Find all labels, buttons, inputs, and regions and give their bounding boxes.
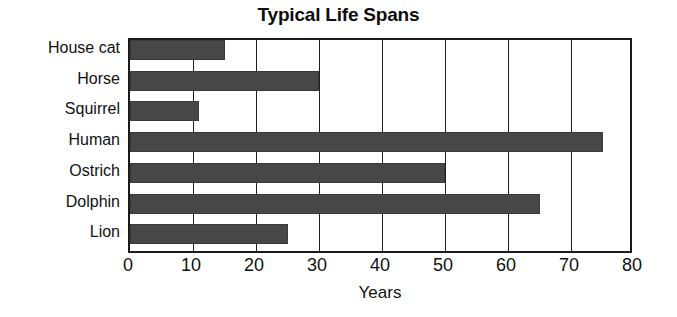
- bar-row: [130, 163, 630, 194]
- y-axis-label: Lion: [90, 224, 120, 240]
- x-axis-tick-0: 0: [123, 255, 133, 276]
- bar: [130, 71, 319, 91]
- y-axis-label: House cat: [48, 40, 120, 56]
- x-axis-tick-10: 10: [181, 255, 201, 276]
- plot-area: [128, 38, 632, 253]
- bar: [130, 163, 445, 183]
- y-axis-label: Squirrel: [65, 101, 120, 117]
- bar: [130, 224, 288, 244]
- bar-row: [130, 132, 630, 163]
- x-axis-tick-50: 50: [433, 255, 453, 276]
- bar-row: [130, 101, 630, 132]
- bar: [130, 194, 540, 214]
- bars-layer: [130, 40, 630, 251]
- y-axis-category-labels: House catHorseSquirrelHumanOstrichDolphi…: [0, 38, 124, 253]
- y-axis-label: Ostrich: [69, 163, 120, 179]
- bar-chart-figure: Typical Life Spans House catHorseSquirre…: [0, 0, 677, 317]
- x-axis-tick-60: 60: [496, 255, 516, 276]
- x-axis-title: Years: [128, 283, 632, 303]
- bar-row: [130, 40, 630, 71]
- x-axis-tick-20: 20: [244, 255, 264, 276]
- bar: [130, 40, 225, 60]
- chart-title: Typical Life Spans: [0, 4, 677, 26]
- x-axis-tick-80: 80: [622, 255, 642, 276]
- y-axis-label: Human: [68, 132, 120, 148]
- y-axis-label: Horse: [77, 71, 120, 87]
- x-axis-tick-40: 40: [370, 255, 390, 276]
- bar-row: [130, 71, 630, 102]
- x-axis-tick-labels: 01020304050607080: [0, 255, 677, 281]
- bar: [130, 132, 603, 152]
- x-axis-tick-30: 30: [307, 255, 327, 276]
- bar: [130, 101, 199, 121]
- x-axis-tick-70: 70: [559, 255, 579, 276]
- bar-row: [130, 194, 630, 225]
- y-axis-label: Dolphin: [66, 194, 120, 210]
- bar-row: [130, 224, 630, 255]
